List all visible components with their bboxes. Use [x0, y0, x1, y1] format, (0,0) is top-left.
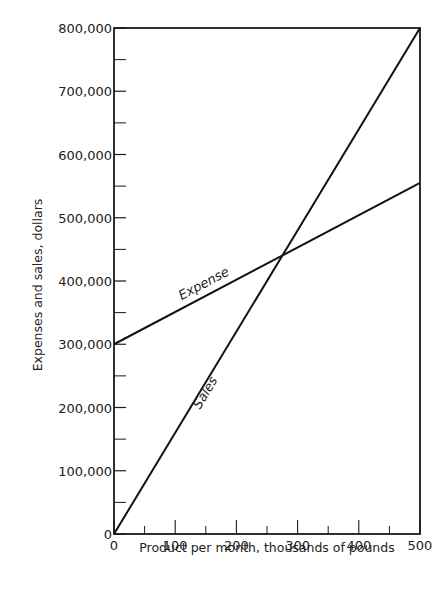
y-tick-label: 300,000: [58, 337, 112, 352]
x-tick-label: 0: [110, 538, 118, 553]
y-axis-tick-labels: 0100,000200,000300,000400,000500,000600,…: [58, 21, 112, 542]
y-tick-label: 600,000: [58, 148, 112, 163]
y-axis-ticks: [114, 28, 126, 534]
y-axis-title: Expenses and sales, dollars: [30, 199, 45, 372]
data-series: [114, 28, 420, 534]
sales-line: [114, 28, 420, 534]
expense-line: [114, 183, 420, 344]
y-tick-label: 800,000: [58, 21, 112, 36]
y-tick-label: 200,000: [58, 401, 112, 416]
x-axis-title: Product per month, thousands of pounds: [139, 540, 395, 555]
x-axis-ticks: [114, 520, 420, 534]
y-tick-label: 400,000: [58, 274, 112, 289]
break-even-chart: 0100,000200,000300,000400,000500,000600,…: [0, 0, 448, 606]
x-tick-label: 500: [408, 538, 433, 553]
y-tick-label: 100,000: [58, 464, 112, 479]
sales-line-label: Sales: [190, 374, 221, 412]
y-tick-label: 500,000: [58, 211, 112, 226]
y-tick-label: 700,000: [58, 84, 112, 99]
